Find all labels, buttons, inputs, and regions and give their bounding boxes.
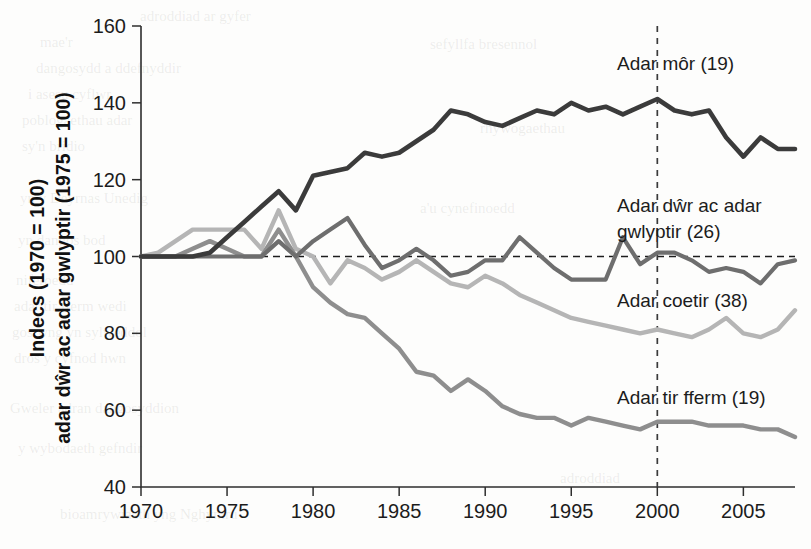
x-tick-label: 1970 xyxy=(119,500,164,522)
y-tick-label: 140 xyxy=(93,92,126,114)
x-axis-ticks xyxy=(141,487,743,496)
x-axis-tick-labels: 19701975198019851990199520002005 xyxy=(119,500,766,522)
x-tick-label: 2000 xyxy=(635,500,680,522)
y-tick-label: 120 xyxy=(93,169,126,191)
y-axis-title-line2: adar dŵr ac adar gwlyptir (1975 = 100) xyxy=(52,92,74,444)
y-tick-label: 40 xyxy=(104,476,126,498)
y-axis-title-line1: Indecs (1970 = 100) xyxy=(26,179,48,357)
y-tick-label: 60 xyxy=(104,399,126,421)
chart-container: adroddiad ar gyfermae'rdangosydd a ddefn… xyxy=(0,0,811,549)
x-tick-label: 1995 xyxy=(549,500,594,522)
x-tick-label: 2005 xyxy=(721,500,766,522)
y-tick-label: 80 xyxy=(104,322,126,344)
line-chart: 406080100120140160 197019751980198519901… xyxy=(0,0,811,549)
label-seabirds: Adar môr (19) xyxy=(617,53,734,74)
x-tick-label: 1985 xyxy=(377,500,422,522)
label-waterbirds-2: gwlyptir (26) xyxy=(617,221,720,242)
x-tick-label: 1990 xyxy=(463,500,508,522)
y-axis-tick-labels: 406080100120140160 xyxy=(93,15,126,498)
y-tick-label: 160 xyxy=(93,15,126,37)
label-woodland: Adar coetir (38) xyxy=(617,290,748,311)
x-tick-label: 1975 xyxy=(205,500,250,522)
label-waterbirds-1: Adar dŵr ac adar xyxy=(617,195,762,216)
y-tick-label: 100 xyxy=(93,246,126,268)
label-farmland: Adar tir fferm (19) xyxy=(617,387,766,408)
x-tick-label: 1980 xyxy=(291,500,336,522)
